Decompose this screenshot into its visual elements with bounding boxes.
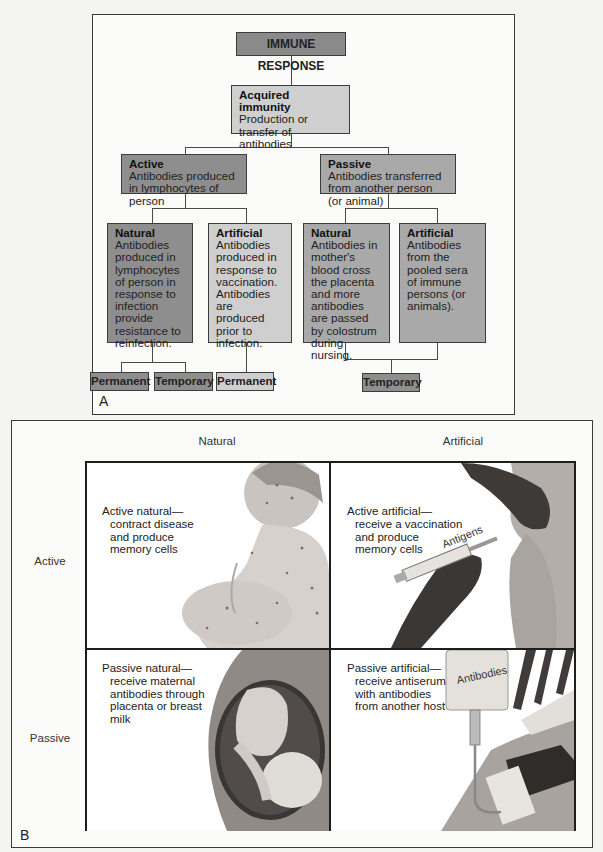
caption-line: antibodies through: [102, 688, 205, 701]
connector-line: [345, 208, 346, 223]
connector-line: [345, 208, 438, 209]
passive-text: Antibodies transferred from another pers…: [328, 169, 441, 206]
passive-artificial-box: Artificial Antibodies from the pooled se…: [399, 223, 486, 343]
outcome-label: Permanent: [91, 375, 150, 387]
caption-line: receive a vaccination: [347, 518, 462, 531]
immune-response-box: IMMUNE RESPONSE: [236, 32, 346, 56]
caption-line: milk: [102, 713, 205, 726]
active-natural-text: Antibodies produced in lymphocytes of pe…: [115, 238, 181, 349]
cell-active-natural: Active natural— contract disease and pro…: [87, 463, 329, 648]
connector-line: [437, 208, 438, 223]
passive-artificial-text: Antibodies from the pooled sera of immun…: [407, 238, 468, 312]
active-natural-box: Natural Antibodies produced in lymphocyt…: [107, 223, 193, 343]
acquired-immunity-heading: Acquired immunity: [239, 89, 342, 113]
caption-passive-artificial: Passive artificial— receive antiserum wi…: [347, 662, 446, 713]
row-header-active: Active: [22, 555, 78, 567]
acquired-immunity-box: Acquired immunity Production or transfer…: [231, 85, 350, 134]
connector-line: [388, 147, 389, 154]
immune-response-title: IMMUNE RESPONSE: [258, 37, 325, 73]
caption-title: Passive artificial—: [347, 662, 441, 674]
caption-passive-natural: Passive natural— receive maternal antibo…: [102, 662, 205, 726]
outcome-label: Permanent: [217, 375, 276, 387]
outcome-permanent-box: Permanent: [216, 372, 274, 391]
caption-title: Active artificial—: [347, 505, 432, 517]
caption-line: receive antiserum: [347, 675, 446, 688]
connector-line: [185, 147, 186, 154]
active-text: Antibodies produced in lymphocytes of pe…: [129, 169, 235, 206]
column-header-natural: Natural: [187, 435, 247, 447]
connector-line: [246, 208, 247, 223]
cell-active-artificial: Antigens Active artificial— receive a va…: [331, 463, 574, 648]
caption-line: with antibodies: [347, 688, 446, 701]
panel-a-flowchart: IMMUNE RESPONSE Acquired immunity Produc…: [92, 14, 515, 415]
caption-title: Active natural—: [102, 505, 183, 517]
connector-line: [121, 362, 186, 363]
column-header-artificial: Artificial: [428, 435, 498, 447]
caption-line: memory cells: [102, 543, 194, 556]
panel-label: A: [99, 393, 108, 409]
connector-line: [121, 362, 122, 372]
cell-passive-natural: Passive natural— receive maternal antibo…: [87, 650, 329, 831]
outcome-temporary-box: Temporary: [362, 373, 420, 392]
passive-natural-text: Antibodies in mother's blood cross the p…: [311, 238, 377, 361]
panel-b-illustrations: Natural Artificial Active Passive B Acti…: [11, 420, 593, 848]
connector-line: [437, 343, 438, 360]
caption-active-natural: Active natural— contract disease and pro…: [102, 505, 194, 556]
connector-line: [152, 208, 247, 209]
passive-immunity-box: Passive Antibodies transferred from anot…: [320, 154, 456, 194]
caption-line: and produce: [347, 531, 462, 544]
connector-line: [185, 362, 186, 372]
caption-line: and produce: [102, 531, 194, 544]
panel-label: B: [20, 827, 29, 843]
active-artificial-box: Artificial Antibodies produced in respon…: [208, 223, 292, 343]
caption-line: from another host: [347, 700, 446, 713]
cell-passive-artificial: Antibodies Passive artificial— receive a…: [331, 650, 574, 831]
active-artificial-text: Antibodies produced in response to vacci…: [216, 238, 277, 349]
caption-title: Passive natural—: [102, 662, 192, 674]
grid-column-divider: [329, 463, 331, 829]
passive-natural-box: Natural Antibodies in mother's blood cro…: [303, 223, 390, 343]
caption-line: contract disease: [102, 518, 194, 531]
outcome-label: Temporary: [155, 375, 214, 387]
outcome-temporary-box: Temporary: [154, 372, 213, 391]
outcome-label: Temporary: [363, 376, 422, 388]
connector-line: [152, 208, 153, 223]
caption-active-artificial: Active artificial— receive a vaccination…: [347, 505, 462, 556]
immunity-grid: Active natural— contract disease and pro…: [85, 461, 576, 831]
caption-line: receive maternal: [102, 675, 205, 688]
acquired-immunity-text: Production or transfer of antibodies: [239, 112, 308, 149]
connector-line: [391, 359, 392, 373]
row-header-passive: Passive: [20, 732, 80, 744]
outcome-permanent-box: Permanent: [90, 372, 149, 391]
caption-line: placenta or breast: [102, 700, 205, 713]
active-immunity-box: Active Antibodies produced in lymphocyte…: [121, 154, 247, 194]
caption-line: memory cells: [347, 543, 462, 556]
grid-row-divider: [87, 648, 574, 650]
